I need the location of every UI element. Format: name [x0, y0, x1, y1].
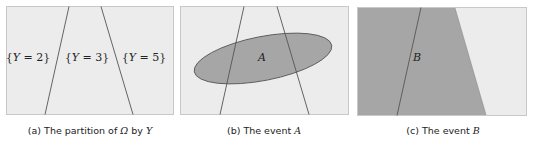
- panel-a: {Y = 2} {Y = 3} {Y = 5} (a) The partitio…: [6, 7, 174, 137]
- event-b-label: B: [412, 51, 421, 64]
- panel-c: B (c) The event B: [358, 8, 527, 137]
- region-label-y2: {Y = 2}: [6, 51, 50, 64]
- region-label-y3: {Y = 3}: [65, 51, 109, 64]
- caption-b: (b) The event A: [227, 125, 301, 136]
- panel-b: A (b) The event A: [181, 7, 349, 137]
- figure: {Y = 2} {Y = 3} {Y = 5} (a) The partitio…: [0, 0, 535, 143]
- region-label-y5: {Y = 5}: [122, 51, 166, 64]
- event-a-label: A: [257, 51, 266, 64]
- caption-c: (c) The event B: [406, 125, 479, 136]
- caption-a: (a) The partition of Ω by Y: [28, 125, 154, 136]
